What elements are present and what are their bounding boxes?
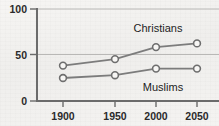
y-axis-tick-labels: 100 50 0 [9,3,27,107]
christians-point-2050 [194,40,201,47]
line-chart: 100 50 0 1900 1950 2000 2050 Christians [0,0,219,126]
christians-point-1950 [112,56,119,63]
y-axis-ticks [30,9,37,101]
series-annotations: Christians Muslims [134,22,184,93]
y-tick-label-50: 50 [15,49,27,61]
muslims-point-2050 [194,65,201,72]
x-axis-tick-labels: 1900 1950 2000 2050 [51,110,209,122]
christians-point-2000 [153,44,160,51]
y-tick-label-0: 0 [21,95,27,107]
muslims-series-label: Muslims [143,81,184,93]
x-tick-label-1950: 1950 [103,110,127,122]
gridlines [37,9,219,55]
x-tick-label-2050: 2050 [185,110,209,122]
y-tick-label-100: 100 [9,3,27,15]
muslims-line [63,69,197,78]
x-tick-label-1900: 1900 [51,110,75,122]
muslims-point-1950 [112,72,119,79]
muslims-point-1900 [60,75,67,82]
muslims-point-2000 [153,65,160,72]
christians-series-label: Christians [134,22,183,34]
series-muslims [60,65,201,81]
christians-point-1900 [60,62,67,69]
x-tick-label-2000: 2000 [144,110,168,122]
